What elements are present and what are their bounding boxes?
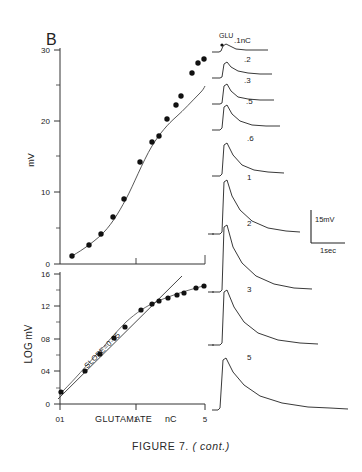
data-point [193,285,198,290]
data-point [149,139,154,144]
data-point [181,290,186,295]
upper-ytick-label-0: 0 [46,260,51,269]
data-point [189,70,194,75]
lower-fit-curve [62,286,204,392]
trace-path [212,105,280,130]
data-point [86,242,91,247]
slope-annotation: SLOPE=0·95 [82,330,122,370]
lower-data-points [58,283,206,394]
lower-ytick-label-04: 04 [41,367,50,376]
data-point [122,324,127,329]
trace-label: .6 [247,134,254,143]
lower-ytick-label-16: 16 [41,270,50,279]
data-point [178,93,183,98]
data-point [82,368,87,373]
lower-x-axis-label-glutamate: GLUTAMATE [95,414,152,424]
lower-ytick-label-08: 08 [41,335,50,344]
data-point [121,196,126,201]
trace-path [212,143,284,176]
trace-label: .3 [244,76,251,85]
data-point [98,231,103,236]
data-point [111,335,116,340]
lower-ytick-label-0: 0 [46,400,51,409]
trace-label: 2 [247,219,252,228]
figure-caption-cont: ( cont.) [192,440,229,452]
trace-path [212,225,312,292]
trace-label: .2 [244,55,251,64]
data-point [137,159,142,164]
upper-ytick-label-20: 20 [41,117,50,126]
scale-bar: 15mV 1sec [311,210,345,255]
data-point [97,351,102,356]
trace-path [212,44,268,52]
lower-y-axis-label: LOG mV [23,324,34,363]
data-point [173,102,178,107]
trace-path [212,290,318,345]
data-point [195,60,200,65]
data-point [138,307,143,312]
data-point [165,295,170,300]
data-point [69,253,74,258]
upper-fit-curve [72,86,205,256]
scale-bar-horizontal-label: 1sec [320,246,336,255]
trace-path [212,84,274,104]
trace-label: 5 [247,353,252,362]
data-point [201,283,206,288]
upper-ytick-label-30: 30 [41,46,50,55]
trace-label: 1 [247,173,252,182]
data-point [201,56,206,61]
trace-label: .1nC [234,36,251,45]
upper-ytick-label-10: 10 [41,188,50,197]
glu-stimulus-label: GLU [219,32,233,39]
lower-plot: 16 12 08 04 0 LOG mV 01 1 5 GLUTAMATE nC… [23,270,208,424]
trace-label: 3 [247,285,252,294]
data-point [58,389,63,394]
lower-x-axis-label-nc: nC [165,414,177,424]
upper-data-points [69,56,206,258]
figure-panel-b: B 30 20 10 0 mV [0,0,362,472]
trace-label: .5 [246,97,253,106]
data-point [164,116,169,121]
data-point [110,214,115,219]
figure-caption-main: FIGURE 7. [132,440,189,452]
scale-bar-vertical-label: 15mV [315,215,335,224]
data-point [156,133,161,138]
figure-caption: FIGURE 7. ( cont.) [0,440,362,452]
figure-svg: B 30 20 10 0 mV [0,0,362,472]
data-point [174,292,179,297]
data-point [149,301,154,306]
lower-xtick-label-5: 5 [203,415,208,424]
data-point [156,298,161,303]
upper-plot: 30 20 10 0 mV [26,46,207,269]
trace-path [212,62,272,78]
lower-xtick-label-01: 01 [56,415,65,424]
upper-y-axis-label: mV [26,153,36,167]
trace-path [212,358,348,410]
lower-ytick-label-12: 12 [41,302,50,311]
